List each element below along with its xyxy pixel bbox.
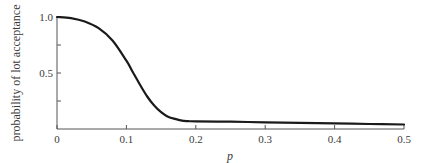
y-axis: 0.51.0 probability of lot acceptance xyxy=(9,5,61,142)
x-axis-title: p xyxy=(226,149,233,163)
y-axis-title: probability of lot acceptance xyxy=(9,5,23,142)
y-tick-label: 0.5 xyxy=(39,67,53,79)
x-tick-label: 0 xyxy=(54,133,60,145)
x-ticks: 00.10.20.30.40.5 xyxy=(54,125,411,145)
oc-curve-chart: 0.51.0 probability of lot acceptance 00.… xyxy=(0,0,426,163)
x-tick-label: 0.4 xyxy=(328,133,342,145)
oc-curve-line xyxy=(57,17,404,125)
x-tick-label: 0.2 xyxy=(189,133,203,145)
x-tick-label: 0.5 xyxy=(397,133,411,145)
y-ticks: 0.51.0 xyxy=(39,11,61,101)
x-tick-label: 0.3 xyxy=(258,133,272,145)
x-axis: 00.10.20.30.40.5 p xyxy=(54,125,411,163)
x-tick-label: 0.1 xyxy=(120,133,134,145)
y-tick-label: 1.0 xyxy=(39,11,53,23)
